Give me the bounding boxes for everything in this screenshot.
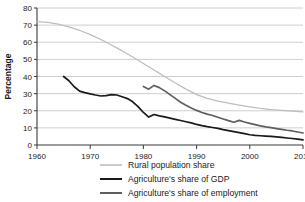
svg-text:40: 40 (23, 73, 32, 82)
series-line-2 (143, 85, 303, 133)
legend-label-1: Agriculture's share of GDP (128, 174, 230, 184)
svg-text:70: 70 (23, 21, 32, 30)
x-axis-ticks: 196019701980199020002010 (28, 145, 305, 161)
svg-text:1960: 1960 (28, 152, 46, 161)
legend-label-2: Agriculture's share of employment (128, 188, 258, 198)
y-axis-label: Percentage (3, 53, 13, 99)
chart-legend: Rural population shareAgriculture's shar… (100, 160, 258, 198)
svg-text:10: 10 (23, 124, 32, 133)
chart-figure: 0102030405060708019601970198019902000201… (0, 0, 305, 202)
y-axis-ticks: 01020304050607080 (23, 4, 37, 150)
svg-text:20: 20 (23, 107, 32, 116)
svg-text:2010: 2010 (294, 152, 305, 161)
line-chart: 0102030405060708019601970198019902000201… (0, 0, 305, 202)
gridlines (37, 8, 303, 128)
svg-text:1970: 1970 (81, 152, 99, 161)
svg-text:2000: 2000 (241, 152, 259, 161)
svg-text:50: 50 (23, 55, 32, 64)
svg-text:0: 0 (28, 141, 33, 150)
legend-label-0: Rural population share (128, 160, 215, 170)
svg-text:30: 30 (23, 90, 32, 99)
series-line-1 (64, 77, 303, 140)
svg-text:80: 80 (23, 4, 32, 13)
svg-text:60: 60 (23, 38, 32, 47)
series-line-0 (37, 22, 303, 112)
